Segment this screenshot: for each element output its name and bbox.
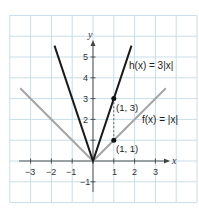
- svg-text:2: 2: [132, 167, 137, 177]
- y-axis-label: y: [87, 29, 93, 40]
- svg-text:−1: −1: [66, 167, 76, 177]
- svg-text:3: 3: [153, 167, 158, 177]
- x-axis-arrow-icon: [164, 159, 170, 164]
- svg-text:−3: −3: [25, 167, 35, 177]
- svg-text:3: 3: [83, 94, 88, 104]
- svg-text:−1: −1: [80, 177, 90, 187]
- point-1-1-label: (1, 1): [116, 143, 138, 154]
- f-function-label: f(x) = |x|: [142, 114, 178, 125]
- svg-text:4: 4: [83, 73, 88, 83]
- y-axis-arrow-icon: [91, 40, 96, 46]
- grid: [10, 15, 197, 202]
- svg-text:−2: −2: [46, 167, 56, 177]
- x-tick-labels: −3 −2 −1 1 2 3: [25, 167, 158, 177]
- point-1-3: [111, 96, 116, 101]
- graph-figure: x y −3 −2 −1 1 2 3 −1 2 3 4 5 (1, 3) (1,…: [0, 0, 199, 215]
- point-1-1: [111, 138, 116, 143]
- svg-text:5: 5: [83, 52, 88, 62]
- h-function-label: h(x) = 3|x|: [129, 60, 173, 71]
- svg-text:1: 1: [112, 167, 117, 177]
- coordinate-plane: x y −3 −2 −1 1 2 3 −1 2 3 4 5 (1, 3) (1,…: [0, 0, 199, 215]
- x-axis-label: x: [171, 155, 177, 166]
- svg-text:2: 2: [83, 115, 88, 125]
- point-1-3-label: (1, 3): [116, 102, 138, 113]
